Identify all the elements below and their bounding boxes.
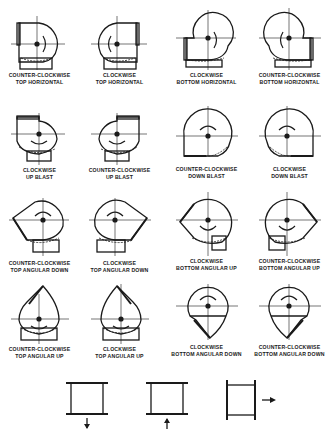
arrangement-label: COUNTER-CLOCKWISETOP HORIZONTAL [0, 72, 81, 86]
fan-housing-diagram [172, 8, 242, 72]
fan-housing-diagram [85, 196, 155, 260]
arrangement-label: COUNTER-CLOCKWISEDOWN BLAST [165, 166, 248, 180]
fan-housing-diagram [255, 6, 325, 72]
arrangement-cw-up-blast: CLOCKWISEUP BLAST [0, 111, 81, 181]
arrangement-cw-down-blast: CLOCKWISEDOWN BLAST [248, 104, 331, 180]
arrangement-ccw-top-angular-down: COUNTER-CLOCKWISETOP ANGULAR DOWN [0, 196, 81, 274]
arrow-up-icon [164, 418, 170, 429]
fan-housing-diagram [172, 282, 242, 344]
fan-housing-diagram [172, 104, 242, 166]
arrangement-label: CLOCKWISEBOTTOM ANGULAR UP [165, 258, 248, 272]
flow-symbol-up [144, 380, 190, 430]
arrangement-ccw-top-horizontal: COUNTER-CLOCKWISETOP HORIZONTAL [0, 14, 81, 86]
arrangement-cw-top-angular-up: CLOCKWISETOP ANGULAR UP [78, 282, 161, 360]
arrangement-label: CLOCKWISETOP HORIZONTAL [78, 72, 161, 86]
fan-housing-diagram [255, 104, 325, 166]
arrangement-cw-bottom-angular-down: CLOCKWISEBOTTOM ANGULAR DOWN [165, 282, 248, 358]
arrangement-cw-top-horizontal: CLOCKWISETOP HORIZONTAL [78, 14, 161, 86]
arrangement-label: COUNTER-CLOCKWISETOP ANGULAR DOWN [0, 260, 81, 274]
arrow-down-icon [84, 418, 90, 429]
arrangement-label: COUNTER-CLOCKWISEUP BLAST [78, 167, 161, 181]
arrangement-label: CLOCKWISEBOTTOM HORIZONTAL [165, 72, 248, 86]
arrangement-label: CLOCKWISETOP ANGULAR DOWN [78, 260, 161, 274]
arrangement-label: CLOCKWISEDOWN BLAST [248, 166, 331, 180]
fan-housing-diagram [85, 111, 155, 167]
fan-housing-diagram [5, 282, 75, 346]
arrangement-ccw-top-angular-up: COUNTER-CLOCKWISETOP ANGULAR UP [0, 282, 81, 360]
arrangement-label: COUNTER-CLOCKWISETOP ANGULAR UP [0, 346, 81, 360]
arrangement-ccw-bottom-angular-up: COUNTER-CLOCKWISEBOTTOM ANGULAR UP [248, 190, 331, 272]
fan-housing-diagram [255, 190, 325, 258]
fan-housing-diagram [85, 282, 155, 346]
arrangement-label: CLOCKWISEUP BLAST [0, 167, 81, 181]
arrangement-cw-bottom-horizontal: CLOCKWISEBOTTOM HORIZONTAL [165, 8, 248, 86]
arrangement-ccw-bottom-angular-down: COUNTER-CLOCKWISEBOTTOM ANGULAR DOWN [248, 282, 331, 358]
arrangement-label: COUNTER-CLOCKWISEBOTTOM ANGULAR UP [248, 258, 331, 272]
arrangement-ccw-up-blast: COUNTER-CLOCKWISEUP BLAST [78, 111, 161, 181]
flow-symbol-down [64, 380, 110, 430]
fan-housing-diagram [5, 14, 75, 72]
arrangement-ccw-down-blast: COUNTER-CLOCKWISEDOWN BLAST [165, 104, 248, 180]
arrangement-label: CLOCKWISEBOTTOM ANGULAR DOWN [165, 344, 248, 358]
flow-symbol-right [224, 378, 284, 422]
fan-housing-diagram [5, 111, 75, 167]
fan-housing-diagram [5, 196, 75, 260]
arrangement-cw-top-angular-down: CLOCKWISETOP ANGULAR DOWN [78, 196, 161, 274]
fan-housing-diagram [172, 190, 242, 258]
arrangement-label: COUNTER-CLOCKWISEBOTTOM ANGULAR DOWN [248, 344, 331, 358]
fan-housing-diagram [85, 14, 155, 72]
arrangement-label: CLOCKWISETOP ANGULAR UP [78, 346, 161, 360]
arrangement-label: COUNTER-CLOCKWISEBOTTOM HORIZONTAL [248, 72, 331, 86]
fan-housing-diagram [255, 282, 325, 344]
arrangement-ccw-bottom-horizontal: COUNTER-CLOCKWISEBOTTOM HORIZONTAL [248, 6, 331, 86]
arrow-right-icon [262, 397, 276, 403]
arrangement-cw-bottom-angular-up: CLOCKWISEBOTTOM ANGULAR UP [165, 190, 248, 272]
